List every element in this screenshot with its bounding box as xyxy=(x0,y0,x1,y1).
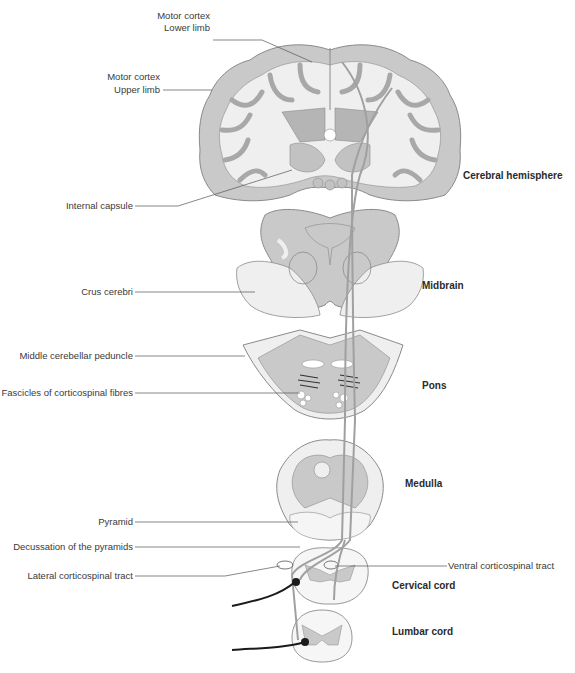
label-internal-capsule: Internal capsule xyxy=(40,200,133,211)
label-motor-cortex-upper-1: Motor cortex xyxy=(100,71,160,82)
cerebral-hemisphere-section xyxy=(199,45,460,201)
midbrain-section xyxy=(237,209,424,317)
label-pyramid: Pyramid xyxy=(40,516,133,527)
label-fascicles-corticospinal: Fascicles of corticospinal fibres xyxy=(0,387,133,398)
label-lateral-corticospinal-tract: Lateral corticospinal tract xyxy=(0,570,133,581)
section-label-lumbar-cord: Lumbar cord xyxy=(392,626,453,637)
label-motor-cortex-upper-limb: Upper limb xyxy=(100,84,160,95)
section-label-pons: Pons xyxy=(422,380,446,391)
label-decussation: Decussation of the pyramids xyxy=(0,541,133,552)
section-label-midbrain: Midbrain xyxy=(422,280,464,291)
medulla-section xyxy=(277,440,384,540)
section-label-cervical-cord: Cervical cord xyxy=(392,580,455,591)
label-motor-cortex-lower-limb: Lower limb xyxy=(150,22,210,33)
section-label-medulla: Medulla xyxy=(405,478,442,489)
pons-section xyxy=(243,330,403,419)
section-label-cerebral-hemisphere: Cerebral hemisphere xyxy=(463,170,563,181)
label-motor-cortex-lower-1: Motor cortex xyxy=(150,10,210,21)
lumbar-cord-section xyxy=(292,610,352,662)
label-middle-cerebellar-peduncle: Middle cerebellar peduncle xyxy=(0,350,133,361)
label-crus-cerebri: Crus cerebri xyxy=(40,286,133,297)
cervical-cord-section xyxy=(277,548,368,604)
label-ventral-corticospinal-tract: Ventral corticospinal tract xyxy=(448,560,554,571)
